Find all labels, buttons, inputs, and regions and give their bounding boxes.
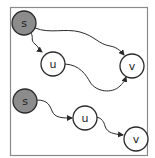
edge-s-to-u-graph-2 [37, 100, 72, 118]
node-s-graph-2: s [13, 89, 37, 113]
edge-u-to-v-graph-1 [65, 64, 126, 91]
node-label: v [129, 60, 136, 73]
edge-s-to-v-graph-1 [35, 28, 124, 55]
node-label: v [133, 133, 140, 146]
node-s-graph-1: s [12, 11, 36, 35]
edge-s-to-u-graph-1 [31, 33, 42, 52]
node-v-graph-1: v [120, 54, 144, 78]
node-u-graph-2: u [73, 106, 97, 130]
node-label: s [21, 17, 27, 30]
graph-diagram: s u v s u v [0, 0, 155, 158]
node-label: u [50, 58, 57, 71]
node-u-graph-1: u [41, 52, 65, 76]
edge-u-to-v-graph-2 [96, 117, 123, 135]
node-v-graph-2: v [124, 127, 148, 151]
node-label: u [82, 112, 89, 125]
node-label: s [22, 95, 28, 108]
